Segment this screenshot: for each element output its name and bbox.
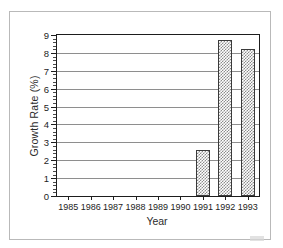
y-axis-tick-label: 8 [44,47,49,58]
y-axis-minor-tick [53,49,56,50]
x-axis-tick [180,196,181,200]
y-axis-minor-tick [53,139,56,140]
y-axis-minor-tick [53,99,56,100]
x-axis-title: Year [56,215,258,227]
y-axis-minor-tick [53,150,56,151]
x-axis-tick-label: 1993 [238,202,258,212]
y-axis-minor-tick [53,135,56,136]
x-axis-tick [158,196,159,200]
x-axis-tick [136,196,137,200]
y-axis-minor-tick [53,96,56,97]
plot-area: 0123456789 19851986198719881989199019911… [56,34,260,197]
y-axis-tick-label: 6 [44,83,49,94]
y-axis-tick [51,89,56,90]
y-axis-minor-tick [53,182,56,183]
bar-chart-figure: Growth Rate (%) 0123456789 1985198619871… [0,0,283,248]
y-axis-minor-tick [53,64,56,65]
chart-screenshot: Growth Rate (%) 0123456789 1985198619871… [0,0,283,248]
y-axis-tick-label: 7 [44,65,49,76]
y-axis-minor-tick [53,171,56,172]
x-axis-tick [113,196,114,200]
y-axis-minor-tick [53,132,56,133]
bar [241,49,255,196]
y-axis-minor-tick [53,42,56,43]
x-axis-tick-label: 1989 [148,202,168,212]
y-axis-minor-tick [53,164,56,165]
y-axis-minor-tick [53,60,56,61]
x-axis-tick [68,196,69,200]
y-axis-minor-tick [53,189,56,190]
y-axis-tick-label: 3 [44,137,49,148]
y-axis-tick [51,53,56,54]
y-axis-minor-tick [53,103,56,104]
y-axis-minor-tick [53,146,56,147]
y-axis-minor-tick [53,167,56,168]
x-axis-tick-label: 1986 [81,202,101,212]
x-axis-tick-label: 1987 [103,202,123,212]
y-axis-minor-tick [53,46,56,47]
y-axis-minor-tick [53,114,56,115]
y-axis-minor-tick [53,78,56,79]
y-axis-tick [51,142,56,143]
y-axis-minor-tick [53,153,56,154]
bar [218,40,232,196]
y-axis-tick-label: 5 [44,101,49,112]
y-axis-tick-label: 9 [44,30,49,41]
y-axis-minor-tick [53,57,56,58]
x-axis-tick [248,196,249,200]
y-axis-minor-tick [53,67,56,68]
x-axis-tick-label: 1992 [215,202,235,212]
y-axis-title: Growth Rate (%) [28,46,40,186]
y-axis-tick-label: 0 [44,191,49,202]
y-axis-tick-label: 2 [44,155,49,166]
y-axis-minor-tick [53,110,56,111]
y-axis-minor-tick [53,39,56,40]
y-axis-tick [51,124,56,125]
x-axis-tick-label: 1990 [170,202,190,212]
y-axis-tick [51,178,56,179]
scan-artifact [250,236,264,241]
y-axis-minor-tick [53,185,56,186]
y-axis-tick [51,35,56,36]
y-axis-minor-tick [53,85,56,86]
y-axis-tick [51,196,56,197]
y-axis-minor-tick [53,74,56,75]
x-axis-tick [203,196,204,200]
y-axis-tick [51,107,56,108]
x-axis-tick-label: 1985 [58,202,78,212]
bar [196,150,210,197]
y-axis-tick-label: 1 [44,173,49,184]
y-axis-minor-tick [53,121,56,122]
x-axis-tick [225,196,226,200]
y-axis-tick [51,160,56,161]
x-axis-tick [91,196,92,200]
y-axis-minor-tick [53,117,56,118]
y-axis-minor-tick [53,92,56,93]
y-axis-minor-tick [53,175,56,176]
y-axis-minor-tick [53,157,56,158]
y-axis-minor-tick [53,82,56,83]
y-axis-minor-tick [53,128,56,129]
y-axis-minor-tick [53,192,56,193]
x-axis-tick-label: 1988 [126,202,146,212]
y-axis-tick-label: 4 [44,119,49,130]
y-axis-tick [51,71,56,72]
x-axis-tick-label: 1991 [193,202,213,212]
